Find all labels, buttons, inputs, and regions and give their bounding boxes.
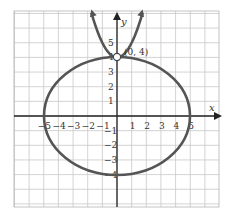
x-tick-label: 1 — [130, 121, 136, 131]
x-axis-label: x — [209, 102, 215, 113]
point-0-4-marker — [113, 53, 120, 60]
x-tick-label: −3 — [67, 121, 81, 131]
y-axis-label: y — [120, 16, 127, 27]
x-tick-label: 4 — [174, 121, 180, 131]
y-tick-label: −3 — [104, 155, 118, 165]
point-label: (0, 4) — [124, 47, 148, 57]
x-axis-arrow-icon — [214, 112, 222, 120]
graph: x y −5−4−3−2−112345 54321−1−2−3−4 (0, 4) — [0, 0, 230, 216]
y-tick-label: 3 — [108, 67, 114, 77]
y-tick-label: 5 — [108, 38, 114, 48]
x-tick-label: 2 — [144, 121, 150, 131]
x-tick-label: 3 — [159, 121, 165, 131]
x-tick-label: −4 — [52, 121, 66, 131]
y-tick-label: 1 — [108, 96, 114, 106]
y-tick-label: −1 — [104, 126, 117, 136]
y-tick-label: −2 — [104, 140, 117, 150]
y-tick-label: 2 — [108, 82, 114, 92]
x-tick-label: −2 — [82, 121, 95, 131]
